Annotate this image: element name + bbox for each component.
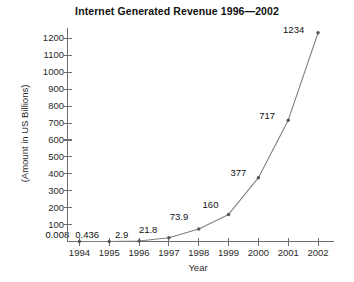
axes (64, 28, 335, 246)
data-point-marker (137, 239, 140, 242)
data-point-marker (108, 240, 111, 243)
series-line (79, 33, 318, 242)
data-point-marker (197, 227, 200, 230)
data-point-marker (316, 31, 319, 34)
data-point-marker (287, 118, 290, 121)
data-point-marker (257, 176, 260, 179)
data-point-marker (78, 240, 81, 243)
plot-area (0, 0, 354, 282)
chart-container: Internet Generated Revenue 1996—2002 (Am… (0, 0, 354, 282)
data-point-marker (227, 213, 230, 216)
data-point-marker (167, 236, 170, 239)
data-series (78, 31, 320, 243)
